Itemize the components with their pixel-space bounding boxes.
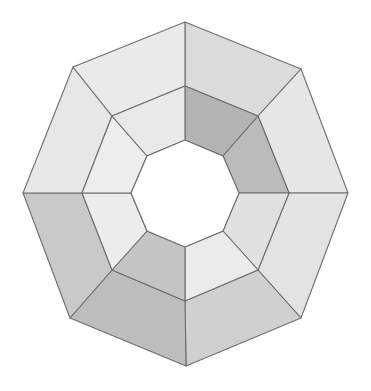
octagonal-ring-figure (0, 0, 371, 391)
inner-octagon-hole (131, 140, 239, 247)
